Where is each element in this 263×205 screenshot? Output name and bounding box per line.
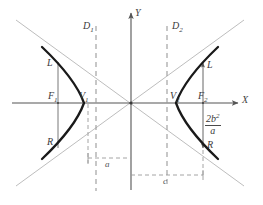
figure-canvas — [0, 0, 263, 205]
directrix-d1-sub: 1 — [90, 26, 94, 34]
y-axis-label: Y — [135, 8, 141, 18]
origin-dot — [129, 101, 132, 104]
focus-f2-sub: 2 — [204, 96, 208, 104]
dimension-a-label: a — [105, 160, 110, 169]
latus-rectum-right-bottom-label: R — [207, 140, 213, 150]
vertex-v2-sub: 2 — [176, 96, 180, 104]
x-axis-label: X — [242, 95, 248, 105]
vertex-v2-label: V2 — [170, 91, 180, 104]
focus-f1-sub: 1 — [54, 96, 58, 104]
directrix-d2-sub: 2 — [179, 26, 183, 34]
latus-rectum-length-denominator: a — [205, 126, 221, 137]
directrix-d2-label: D2 — [172, 21, 183, 34]
latus-rectum-numerator-text: 2b — [206, 113, 216, 124]
hyperbola-figure: X Y D1 D2 F1 F2 V1 V2 L R L R 2b2 a a c — [0, 0, 263, 205]
focus-f2-label: F2 — [198, 91, 208, 104]
latus-rectum-length-label: 2b2 a — [205, 113, 221, 136]
latus-rectum-length-numerator: 2b2 — [205, 113, 221, 126]
dimension-c-label: c — [163, 177, 167, 186]
latus-rectum-numerator-exponent: 2 — [216, 112, 220, 120]
latus-rectum-left-bottom-label: R — [47, 137, 53, 147]
latus-rectum-left-top-label: L — [47, 58, 53, 68]
vertex-v1-label: V1 — [79, 91, 89, 104]
directrix-d1-label: D1 — [83, 21, 94, 34]
vertex-v1-sub: 1 — [85, 96, 89, 104]
latus-rectum-right-top-label: L — [207, 60, 213, 70]
focus-f1-label: F1 — [48, 91, 58, 104]
